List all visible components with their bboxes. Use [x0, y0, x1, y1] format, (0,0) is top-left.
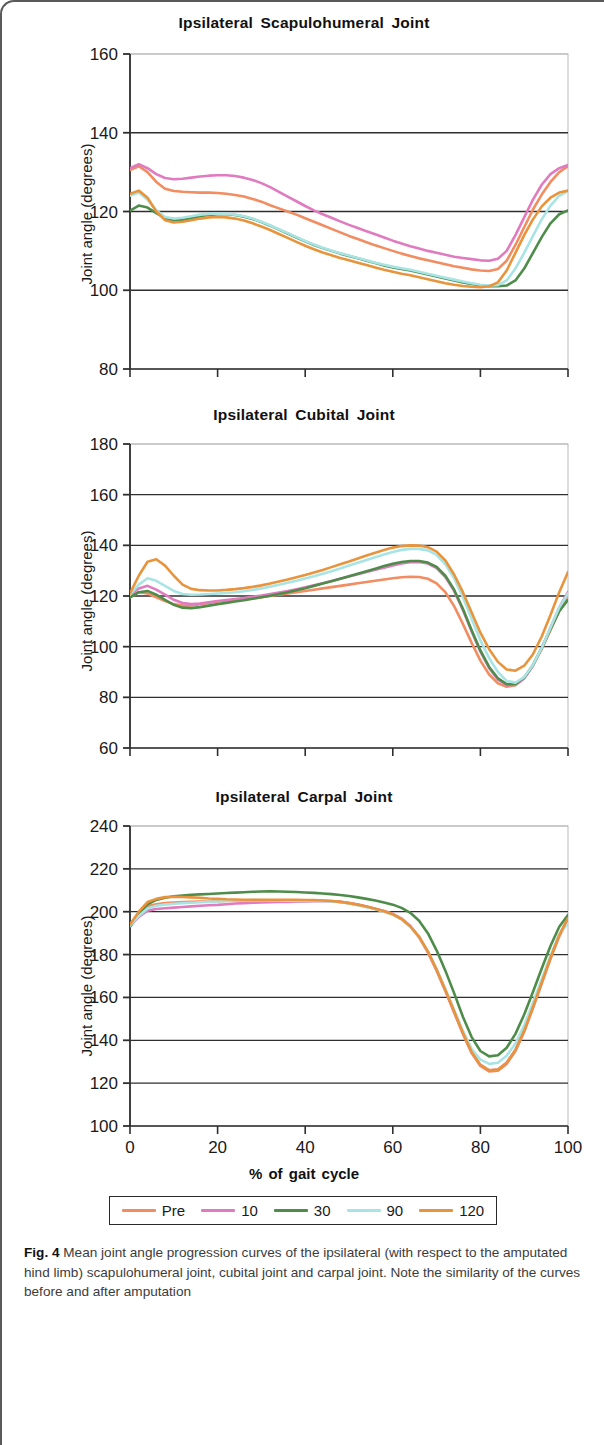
- legend-item-label: 90: [387, 1202, 404, 1219]
- x-tick-label: 20: [208, 1138, 227, 1157]
- legend-color-swatch: [274, 1209, 308, 1212]
- legend-color-swatch: [347, 1209, 381, 1212]
- series-line-120: [130, 897, 568, 1071]
- y-tick-label: 120: [90, 1074, 118, 1093]
- y-tick-label: 80: [99, 360, 118, 379]
- x-tick-label: 60: [383, 1138, 402, 1157]
- legend-item[interactable]: 90: [347, 1202, 404, 1219]
- x-axis-label: % of gait cycle: [2, 1165, 604, 1182]
- series-group: [130, 164, 568, 287]
- chart-title-cubital: Ipsilateral Cubital Joint: [2, 394, 604, 426]
- chart-title-carpal: Ipsilateral Carpal Joint: [2, 776, 604, 808]
- y-tick-label: 220: [90, 860, 118, 879]
- legend-color-swatch: [419, 1209, 453, 1212]
- plot-frame: [130, 826, 568, 1126]
- legend-item-label: 30: [314, 1202, 331, 1219]
- y-tick-label: 100: [90, 1117, 118, 1136]
- x-tick-label: 40: [296, 1138, 315, 1157]
- series-group: [130, 545, 568, 686]
- chart-panel-carpal: Ipsilateral Carpal Joint Joint angle (de…: [2, 776, 604, 1182]
- legend-row: Pre103090120: [2, 1196, 604, 1225]
- series-line-90: [130, 191, 568, 286]
- series-line-10: [130, 164, 568, 260]
- series-line-120: [130, 191, 568, 287]
- legend-color-swatch: [201, 1209, 235, 1212]
- legend-item[interactable]: 30: [274, 1202, 331, 1219]
- series-line-Pre: [130, 577, 568, 687]
- y-tick-label: 80: [99, 688, 118, 707]
- x-tick-label: 100: [554, 1138, 582, 1157]
- legend-item[interactable]: 120: [419, 1202, 484, 1219]
- x-tick-label: 0: [125, 1138, 134, 1157]
- plot-area-carpal: Joint angle (degrees) 100120140160180200…: [2, 808, 604, 1163]
- y-axis-label-cubital: Joint angle (degrees): [78, 531, 95, 672]
- series-line-90: [130, 549, 568, 683]
- chart-title-scapulohumeral: Ipsilateral Scapulohumeral Joint: [2, 2, 604, 34]
- y-tick-label: 140: [90, 124, 118, 143]
- y-tick-label: 60: [99, 739, 118, 758]
- legend-color-swatch: [122, 1209, 156, 1212]
- legend-item-label: 120: [459, 1202, 484, 1219]
- series-group: [130, 891, 568, 1071]
- legend-item[interactable]: 10: [201, 1202, 258, 1219]
- legend-item[interactable]: Pre: [122, 1202, 185, 1219]
- y-tick-label: 240: [90, 817, 118, 836]
- figure-number-label: Fig. 4: [24, 1245, 60, 1260]
- chart-panel-cubital: Ipsilateral Cubital Joint Joint angle (d…: [2, 394, 604, 776]
- x-tick-label: 80: [471, 1138, 490, 1157]
- figure-caption: Fig. 4 Mean joint angle progression curv…: [24, 1243, 586, 1302]
- y-axis-label-scapulohumeral: Joint angle (degrees): [78, 144, 95, 285]
- y-axis-label-carpal: Joint angle (degrees): [78, 915, 95, 1056]
- chart-legend: Pre103090120: [109, 1196, 497, 1225]
- figure-container: Ipsilateral Scapulohumeral Joint Joint a…: [0, 0, 604, 1445]
- series-line-10: [130, 901, 568, 1070]
- series-line-Pre: [130, 901, 568, 1072]
- series-line-90: [130, 900, 568, 1064]
- figure-caption-text: Mean joint angle progression curves of t…: [24, 1245, 580, 1299]
- y-tick-label: 160: [90, 45, 118, 64]
- plot-area-cubital: Joint angle (degrees) 608010012014016018…: [2, 426, 604, 776]
- plot-area-scapulohumeral: Joint angle (degrees) 80100120140160: [2, 34, 604, 394]
- chart-panel-scapulohumeral: Ipsilateral Scapulohumeral Joint Joint a…: [2, 2, 604, 394]
- series-line-30: [130, 206, 568, 287]
- y-tick-label: 180: [90, 435, 118, 454]
- legend-item-label: Pre: [162, 1202, 185, 1219]
- series-line-30: [130, 891, 568, 1056]
- y-tick-label: 160: [90, 486, 118, 505]
- legend-item-label: 10: [241, 1202, 258, 1219]
